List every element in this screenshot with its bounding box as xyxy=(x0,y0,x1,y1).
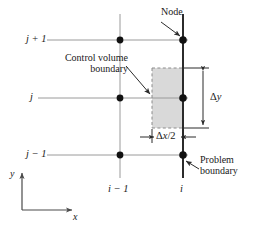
column-label-i: i xyxy=(180,183,183,195)
finite-volume-grid-diagram: j + 1 j j − 1 i − 1 i Node Control volum… xyxy=(0,0,255,233)
control-volume-leader-arrow xyxy=(126,66,150,94)
x-axis-label: x xyxy=(73,211,77,222)
delta-x-half-label: Δx/2 xyxy=(156,130,176,142)
cv-label-line-2: boundary xyxy=(90,63,128,74)
row-label-j-minus-1: j − 1 xyxy=(26,148,47,160)
control-volume-boundary-label: Control volume boundary xyxy=(8,52,128,74)
y-axis-label: y xyxy=(10,168,14,179)
node-label: Node xyxy=(161,6,183,17)
node-i-j-plus-1 xyxy=(179,36,187,44)
row-label-j: j xyxy=(30,91,33,103)
node-i-minus-1-j-plus-1 xyxy=(117,37,124,44)
delta-y-label: Δy xyxy=(210,91,221,103)
column-label-i-minus-1: i − 1 xyxy=(108,183,129,195)
node-i-minus-1-j-minus-1 xyxy=(117,152,124,159)
node-leader-arrow xyxy=(161,22,180,36)
problem-boundary-leader-arrow xyxy=(186,161,199,169)
pb-label-line-2: boundary xyxy=(200,165,238,176)
coordinate-axes xyxy=(22,173,72,210)
pb-label-line-1: Problem xyxy=(200,154,234,165)
row-label-j-plus-1: j + 1 xyxy=(26,33,47,45)
node-i-j xyxy=(179,94,187,102)
cv-label-line-1: Control volume xyxy=(65,52,128,63)
node-i-minus-1-j xyxy=(117,95,124,102)
problem-boundary-label: Problem boundary xyxy=(200,154,238,176)
node-i-j-minus-1 xyxy=(179,151,187,159)
